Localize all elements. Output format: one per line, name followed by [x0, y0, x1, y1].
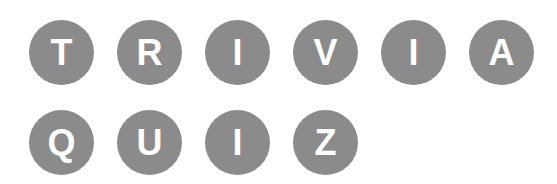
- letter-tile-z: Z: [293, 110, 358, 175]
- word-quiz: Q U I Z: [29, 110, 358, 175]
- letter-tile-v: V: [293, 20, 358, 85]
- letter: R: [137, 35, 163, 71]
- word-trivia: T R I V I A: [29, 20, 534, 85]
- letter-tile-q: Q: [29, 110, 94, 175]
- letter: Q: [47, 125, 75, 161]
- letter: U: [137, 125, 163, 161]
- letter-tile-i: I: [205, 20, 270, 85]
- letter: V: [313, 35, 337, 71]
- letter: T: [51, 35, 73, 71]
- letter-tile-i: I: [381, 20, 446, 85]
- letter: I: [232, 125, 242, 161]
- letter-tile-t: T: [29, 20, 94, 85]
- letter: Z: [315, 125, 337, 161]
- letter: I: [408, 35, 418, 71]
- letter-tile-u: U: [117, 110, 182, 175]
- letter-tile-r: R: [117, 20, 182, 85]
- letter-tile-i: I: [205, 110, 270, 175]
- letter: A: [489, 35, 515, 71]
- letter-tile-a: A: [469, 20, 534, 85]
- letter: I: [232, 35, 242, 71]
